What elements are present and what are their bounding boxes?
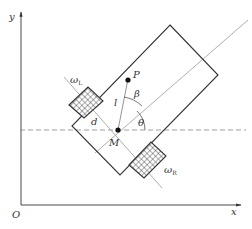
coordinate-axes: y O x [8,11,241,220]
left-wheel [69,87,103,118]
point-p-label: P [132,69,140,80]
segment-mp [118,79,128,130]
theta-label: θ [138,117,144,128]
point-p [125,77,130,82]
origin-label: O [12,209,20,220]
y-axis-label: y [8,11,15,22]
right-wheel [129,142,166,178]
omega-left-label: ωL [70,74,82,86]
robot-kinematics-diagram: y O x P M d l β θ ωL ωR [0,0,252,229]
point-m [115,127,120,132]
point-m-label: M [108,137,120,148]
heading-axis-line [95,20,248,153]
d-label: d [91,116,97,127]
x-axis-label: x [231,206,237,217]
l-label: l [114,97,117,108]
omega-right-label: ωR [164,164,177,176]
beta-label: β [133,88,140,99]
